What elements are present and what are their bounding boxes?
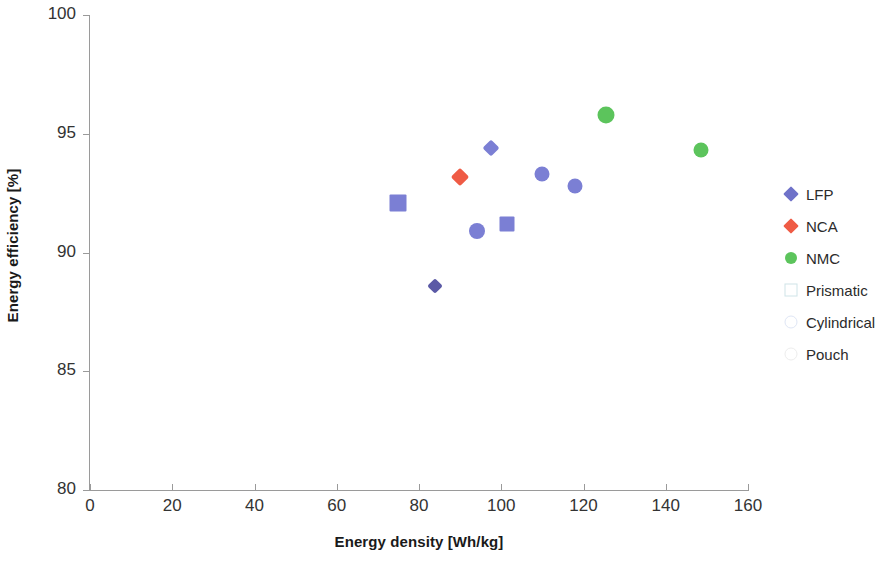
data-point-nmc — [598, 106, 615, 123]
x-tick-label: 120 — [569, 496, 597, 516]
legend-item-cylindrical[interactable]: Cylindrical — [782, 306, 895, 338]
data-point-nca — [451, 167, 469, 185]
legend-item-lfp[interactable]: LFP — [782, 178, 895, 210]
data-point-lfp — [482, 140, 499, 157]
y-tick — [83, 253, 90, 254]
legend-label: Cylindrical — [806, 314, 875, 331]
chart-legend: LFPNCANMCPrismaticCylindricalPouch — [782, 178, 895, 370]
data-point-lfp — [390, 194, 407, 211]
x-tick-label: 20 — [163, 496, 182, 516]
legend-item-prismatic[interactable]: Prismatic — [782, 274, 895, 306]
y-tick-label: 90 — [0, 242, 76, 262]
legend-label: Prismatic — [806, 282, 868, 299]
legend-marker-circle-icon — [782, 314, 799, 331]
x-tick-label: 40 — [245, 496, 264, 516]
x-tick-label: 140 — [652, 496, 680, 516]
legend-marker-diamond-icon — [782, 218, 799, 235]
x-axis-title: Energy density [Wh/kg] — [90, 533, 748, 550]
legend-label: NMC — [806, 250, 840, 267]
x-tick-label: 160 — [734, 496, 762, 516]
x-tick — [748, 484, 749, 491]
legend-label: NCA — [806, 218, 838, 235]
legend-label: Pouch — [806, 346, 849, 363]
y-tick — [83, 490, 90, 491]
x-tick-label: 0 — [85, 496, 94, 516]
data-point-lfp — [568, 179, 583, 194]
y-tick — [83, 15, 90, 16]
data-point-nmc — [693, 143, 708, 158]
y-tick-label: 80 — [0, 479, 76, 499]
legend-marker-diamond-icon — [782, 186, 799, 203]
legend-label: LFP — [806, 186, 834, 203]
legend-item-pouch[interactable]: Pouch — [782, 338, 895, 370]
legend-marker-square-icon — [782, 282, 799, 299]
legend-item-nca[interactable]: NCA — [782, 210, 895, 242]
data-point-lfp — [535, 167, 550, 182]
plot-area — [90, 15, 748, 490]
legend-item-nmc[interactable]: NMC — [782, 242, 895, 274]
y-tick — [83, 371, 90, 372]
data-point-lfp — [428, 278, 444, 294]
x-tick-label: 60 — [327, 496, 346, 516]
legend-marker-circle-icon — [782, 346, 799, 363]
x-tick-label: 80 — [410, 496, 429, 516]
data-point-lfp — [500, 217, 515, 232]
scatter-chart: Energy efficiency [%] 80859095100 020406… — [0, 0, 895, 563]
y-tick — [83, 134, 90, 135]
y-tick-label: 85 — [0, 360, 76, 380]
y-tick-label: 100 — [0, 4, 76, 24]
legend-marker-circle-icon — [782, 250, 799, 267]
x-tick-label: 100 — [487, 496, 515, 516]
y-tick-label: 95 — [0, 123, 76, 143]
data-point-lfp — [469, 223, 485, 239]
